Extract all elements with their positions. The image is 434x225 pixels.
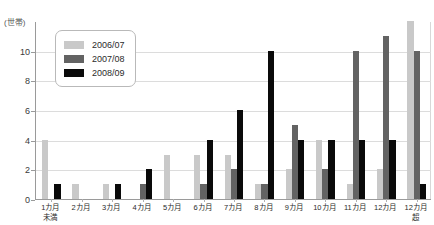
x-axis-tick-mark — [143, 199, 144, 202]
bar-group — [254, 22, 274, 199]
x-axis-category-label: 4カ月 — [126, 203, 156, 213]
bar-group — [163, 22, 183, 199]
x-axis-tick-mark — [82, 199, 83, 202]
bar[interactable] — [54, 184, 60, 199]
y-axis-tick-label: 2 — [12, 165, 30, 175]
legend-item[interactable]: 2006/07 — [64, 38, 125, 51]
bar[interactable] — [420, 184, 426, 199]
legend-swatch-icon — [64, 55, 84, 63]
bar[interactable] — [298, 140, 304, 199]
x-axis-tick-mark — [325, 199, 326, 202]
x-axis-tick-mark — [173, 199, 174, 202]
x-axis-tick-mark — [356, 199, 357, 202]
y-axis-tick-label: 0 — [12, 195, 30, 205]
legend-item[interactable]: 2007/08 — [64, 52, 125, 65]
x-axis-category-label: 11カ月 — [340, 203, 370, 213]
bar-group — [346, 22, 366, 199]
bar[interactable] — [207, 140, 213, 199]
x-axis-tick-mark — [204, 199, 205, 202]
legend-item-label: 2008/09 — [92, 68, 125, 78]
bar[interactable] — [389, 140, 395, 199]
x-axis-category-label: 8カ月 — [248, 203, 278, 213]
y-axis-tick-label: 4 — [12, 136, 30, 146]
legend: 2006/07 2007/08 2008/09 — [55, 30, 136, 87]
bar[interactable] — [146, 169, 152, 199]
bar[interactable] — [42, 140, 48, 199]
legend-item[interactable]: 2008/09 — [64, 66, 125, 79]
bar-chart: (世帯) 0246810 1カ月 未満2カ月3カ月4カ月5カ月6カ月7カ月8カ月… — [0, 0, 434, 225]
bar-group — [376, 22, 396, 199]
bar[interactable] — [359, 140, 365, 199]
bar[interactable] — [164, 155, 170, 200]
x-axis-category-label: 2カ月 — [65, 203, 95, 213]
bar-group — [193, 22, 213, 199]
x-axis-tick-mark — [112, 199, 113, 202]
y-axis-tick-label: 10 — [12, 47, 30, 57]
x-axis-tick-mark — [51, 199, 52, 202]
bar-group — [407, 22, 427, 199]
legend-item-label: 2007/08 — [92, 54, 125, 64]
bar-group — [315, 22, 335, 199]
bar[interactable] — [115, 184, 121, 199]
y-axis-tick-mark — [31, 200, 35, 201]
legend-item-label: 2006/07 — [92, 40, 125, 50]
x-axis-tick-mark — [264, 199, 265, 202]
bar[interactable] — [103, 184, 109, 199]
x-axis-tick-mark — [386, 199, 387, 202]
legend-swatch-icon — [64, 41, 84, 49]
x-axis-category-label: 1カ月 未満 — [35, 203, 65, 222]
bar[interactable] — [328, 140, 334, 199]
x-axis-tick-mark — [295, 199, 296, 202]
x-axis-category-label: 7カ月 — [218, 203, 248, 213]
bar[interactable] — [268, 51, 274, 199]
x-axis-category-label: 6カ月 — [187, 203, 217, 213]
x-axis-category-label: 10カ月 — [309, 203, 339, 213]
x-axis-tick-mark — [417, 199, 418, 202]
bar[interactable] — [72, 184, 78, 199]
x-axis-category-label: 9カ月 — [279, 203, 309, 213]
x-axis-category-labels: 1カ月 未満2カ月3カ月4カ月5カ月6カ月7カ月8カ月9カ月10カ月11カ月12… — [35, 203, 431, 225]
y-axis-tick-label: 6 — [12, 106, 30, 116]
y-axis-tick-label: 8 — [12, 76, 30, 86]
x-axis-category-label: 5カ月 — [157, 203, 187, 213]
bar-group — [224, 22, 244, 199]
x-axis-tick-mark — [234, 199, 235, 202]
bar[interactable] — [237, 110, 243, 199]
bar[interactable] — [414, 51, 420, 199]
x-axis-category-label: 12カ月 超 — [401, 203, 431, 222]
bar-group — [285, 22, 305, 199]
legend-swatch-icon — [64, 69, 84, 77]
x-axis-category-label: 3カ月 — [96, 203, 126, 213]
x-axis-category-label: 12カ月 — [370, 203, 400, 213]
